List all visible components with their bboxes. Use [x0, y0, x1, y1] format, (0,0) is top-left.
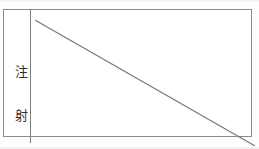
table-cell-content-blank [35, 20, 255, 146]
scan-edge-artifact-bottom [0, 147, 259, 149]
form-table: 注 射 [3, 9, 252, 137]
scan-edge-artifact-top [0, 0, 259, 2]
diagonal-strikethrough-line [35, 20, 255, 146]
table-column-divider [30, 9, 31, 143]
scanned-page: 注 射 [0, 0, 259, 149]
